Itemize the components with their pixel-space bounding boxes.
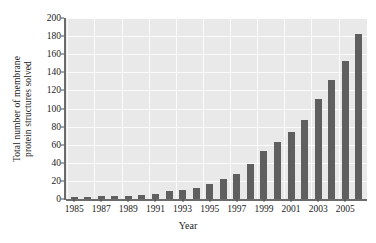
bar-1993 [179,190,186,199]
bar-2001 [288,132,295,199]
bar-1998 [247,164,254,199]
y-tick-label-60: 60 [52,140,62,150]
x-tick-mark-1989 [128,199,129,202]
x-axis-tick-labels: 1985198719891991199319951997199920012003… [66,203,367,219]
y-tick-label-140: 140 [47,67,61,77]
x-tick-mark-1993 [182,199,183,202]
bar-1992 [166,191,173,199]
x-tick-label-1991: 1991 [146,203,165,215]
bar-2002 [301,120,308,199]
x-tick-mark-1987 [101,199,102,202]
x-tick-label-1993: 1993 [173,203,192,215]
x-tick-label-1987: 1987 [92,203,111,215]
x-tick-label-1985: 1985 [65,203,84,215]
y-axis-spine [64,18,66,200]
horizontal-gridline [66,90,367,91]
x-tick-label-1997: 1997 [227,203,246,215]
horizontal-gridline [66,18,367,19]
y-tick-label-40: 40 [52,158,62,168]
vertical-gridline [176,18,177,199]
plot-area [66,18,367,199]
y-tick-label-160: 160 [47,49,61,59]
chart-figure: Total number of membrane protein structu… [0,0,376,243]
x-tick-mark-1995 [209,199,210,202]
vertical-gridline [230,18,231,199]
vertical-gridline [122,18,123,199]
bar-2005 [342,61,349,199]
bar-1996 [220,179,227,199]
bar-1999 [260,151,267,199]
x-tick-mark-1991 [155,199,156,202]
x-tick-mark-1997 [236,199,237,202]
vertical-gridline [67,18,68,199]
x-tick-mark-2001 [291,199,292,202]
horizontal-gridline [66,54,367,55]
x-tick-label-1999: 1999 [254,203,273,215]
x-tick-label-1989: 1989 [119,203,138,215]
horizontal-gridline [66,109,367,110]
vertical-gridline [94,18,95,199]
bar-1994 [193,188,200,199]
x-tick-label-1995: 1995 [200,203,219,215]
x-tick-label-2001: 2001 [282,203,301,215]
y-tick-label-100: 100 [47,104,61,114]
horizontal-gridline [66,72,367,73]
y-tick-label-200: 200 [47,13,61,23]
horizontal-gridline [66,127,367,128]
bar-2004 [328,80,335,199]
horizontal-gridline [66,181,367,182]
x-axis-label: Year [0,220,376,231]
bar-2000 [274,142,281,199]
vertical-gridline [149,18,150,199]
x-tick-mark-2005 [345,199,346,202]
y-tick-label-180: 180 [47,31,61,41]
vertical-gridline [311,18,312,199]
y-tick-label-80: 80 [52,122,62,132]
y-tick-label-120: 120 [47,85,61,95]
vertical-gridline [203,18,204,199]
vertical-gridline [339,18,340,199]
x-axis-spine [66,199,367,201]
horizontal-gridline [66,163,367,164]
x-tick-label-2005: 2005 [336,203,355,215]
bar-1997 [233,174,240,199]
x-tick-mark-1985 [74,199,75,202]
vertical-gridline [257,18,258,199]
vertical-gridline [284,18,285,199]
x-tick-mark-2003 [318,199,319,202]
bar-2006 [355,34,362,199]
y-axis-label-line-1: Total number of membrane [12,56,23,162]
y-axis-tick-labels: 020406080100120140160180200 [33,18,64,200]
bar-2003 [315,99,322,199]
horizontal-gridline [66,145,367,146]
y-tick-label-20: 20 [52,176,62,186]
horizontal-gridline [66,36,367,37]
x-tick-label-2003: 2003 [309,203,328,215]
x-tick-mark-1999 [263,199,264,202]
bar-1995 [206,184,213,199]
